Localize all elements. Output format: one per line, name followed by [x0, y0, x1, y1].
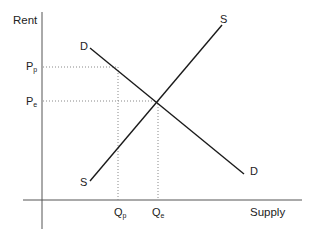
quantity-label-qp: Qp: [114, 207, 126, 219]
supply-label-start: S: [80, 177, 87, 188]
price-label-pe: Pe: [26, 96, 37, 108]
y-axis-label: Rent: [13, 15, 37, 27]
pe-sub: e: [33, 101, 37, 108]
x-axis-label: Supply: [250, 207, 285, 219]
demand-label-end: D: [250, 166, 258, 177]
quantity-label-qe: Qe: [152, 207, 164, 219]
qp-main: Q: [114, 206, 123, 218]
qe-sub: e: [161, 212, 165, 219]
qe-main: Q: [152, 206, 161, 218]
demand-label-start: D: [80, 41, 88, 52]
qp-sub: p: [123, 212, 127, 219]
pp-sub: p: [33, 66, 37, 73]
diagram-canvas: [0, 0, 316, 240]
supply-curve: [90, 25, 222, 181]
price-label-pp: Pp: [26, 61, 37, 73]
supply-label-end: S: [220, 14, 227, 25]
demand-curve: [90, 48, 244, 174]
